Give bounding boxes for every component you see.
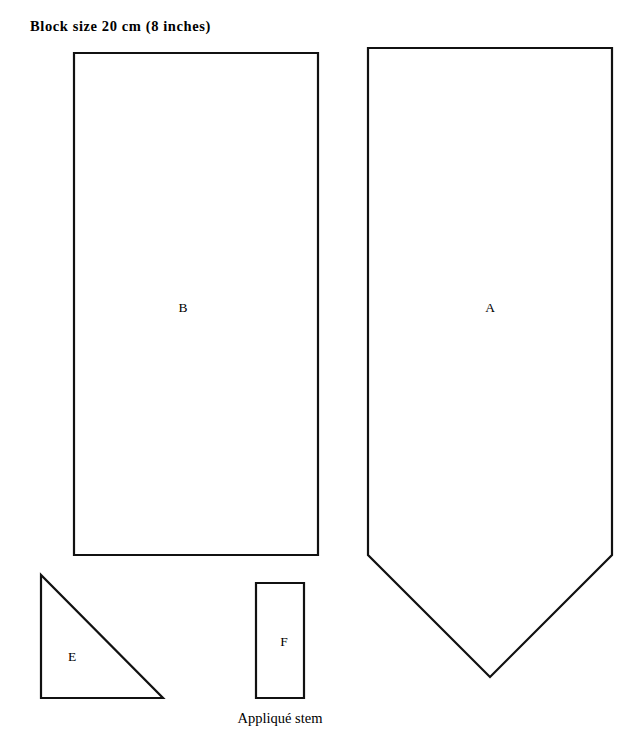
applique-stem-caption: Appliqué stem <box>238 710 323 727</box>
piece-label-e: E <box>68 650 76 664</box>
piece-shape-a <box>368 48 612 677</box>
pattern-sheet: Block size 20 cm (8 inches) A B E F Appl… <box>0 0 636 755</box>
piece-label-a: A <box>485 301 495 315</box>
piece-shape-b <box>74 53 318 555</box>
piece-label-f: F <box>280 635 288 649</box>
piece-label-b: B <box>178 301 187 315</box>
piece-shape-e <box>41 575 163 698</box>
pattern-drawing-canvas <box>0 0 636 755</box>
